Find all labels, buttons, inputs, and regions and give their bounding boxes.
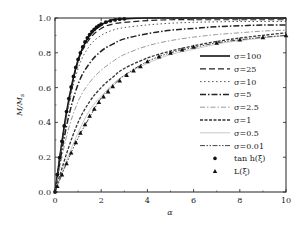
x-tick-label: 4 <box>145 196 150 205</box>
legend-label: σ=100 <box>234 52 261 61</box>
legend-label: σ=5 <box>234 90 251 99</box>
legend-label: σ=2.5 <box>234 103 259 112</box>
chart: 0246810 0.00.20.40.60.81.0 α M/Ms σ=100σ… <box>0 0 303 228</box>
marker-circle <box>69 85 73 89</box>
x-tick-label: 2 <box>99 196 104 205</box>
marker-circle <box>109 19 113 23</box>
legend-item: σ=1 <box>200 116 251 125</box>
legend-item: σ=10 <box>200 78 256 87</box>
marker-circle <box>67 97 71 101</box>
x-tick-label: 6 <box>191 196 196 205</box>
marker-circle <box>79 51 83 55</box>
marker-triangle <box>87 113 92 117</box>
marker-circle <box>113 18 117 22</box>
legend-label: L(ξ) <box>234 167 250 176</box>
marker-circle <box>85 36 89 40</box>
marker-circle <box>58 156 62 160</box>
legend: σ=100σ=25σ=10σ=5σ=2.5σ=1σ=0.5σ=0.01tan h… <box>200 52 265 176</box>
legend-label: σ=25 <box>234 65 256 74</box>
legend-item: σ=0.5 <box>200 129 259 138</box>
marker-circle <box>65 110 69 114</box>
legend-label: σ=0.01 <box>234 142 264 151</box>
x-tick-label: 8 <box>237 196 242 205</box>
marker-circle <box>104 20 108 24</box>
marker-circle <box>213 157 217 161</box>
marker-circle <box>72 75 76 79</box>
legend-label: σ=1 <box>234 116 251 125</box>
legend-label: σ=10 <box>234 78 256 87</box>
marker-circle <box>81 45 85 49</box>
marker-triangle <box>213 169 217 173</box>
legend-item: L(ξ) <box>213 167 250 176</box>
x-tick-label: 10 <box>281 196 291 205</box>
y-axis-label: M/Ms <box>15 94 25 117</box>
y-tick-label: 0.6 <box>38 84 51 93</box>
marker-circle <box>74 66 78 70</box>
y-tick-label: 0.4 <box>38 118 51 127</box>
marker-circle <box>62 124 66 128</box>
legend-item: σ=5 <box>200 90 251 99</box>
x-axis-label: α <box>167 208 173 217</box>
legend-item: tan h(ξ) <box>213 154 265 163</box>
y-tick-label: 0.0 <box>38 188 51 197</box>
marker-triangle <box>64 161 69 165</box>
x-tick-label: 0 <box>52 196 57 205</box>
marker-circle <box>88 33 92 37</box>
legend-label: σ=0.5 <box>234 129 259 138</box>
legend-item: σ=2.5 <box>200 103 259 112</box>
marker-circle <box>83 40 87 44</box>
legend-item: σ=25 <box>200 65 256 74</box>
legend-item: σ=0.01 <box>200 142 264 151</box>
y-tick-label: 0.2 <box>38 153 51 162</box>
marker-circle <box>76 58 80 62</box>
marker-circle <box>99 22 103 26</box>
marker-circle <box>60 139 64 143</box>
y-tick-label: 0.8 <box>38 49 51 58</box>
legend-item: σ=100 <box>200 52 261 61</box>
legend-label: tan h(ξ) <box>234 154 265 163</box>
y-tick-label: 1.0 <box>38 14 51 23</box>
svg-text:M/Ms: M/Ms <box>15 94 25 117</box>
